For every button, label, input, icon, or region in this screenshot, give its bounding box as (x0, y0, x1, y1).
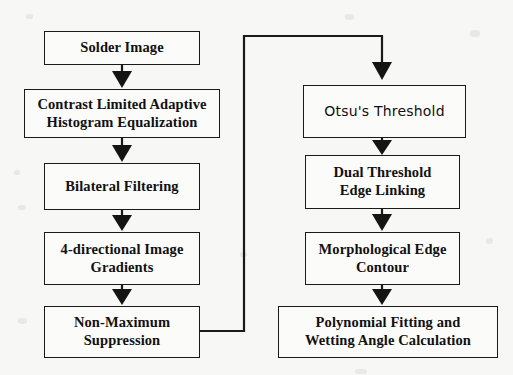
node-label: Dual ThresholdEdge Linking (330, 164, 436, 199)
node-dual-threshold-edge-linking[interactable]: Dual ThresholdEdge Linking (305, 155, 460, 209)
scan-speck (470, 30, 480, 37)
edge-gradients-to-nms (112, 285, 132, 305)
node-label-line2: Gradients (91, 259, 154, 275)
flowchart-canvas: Solder Image Contrast Limited AdaptiveHi… (0, 0, 513, 375)
node-label-line1: 4-directional Image (61, 241, 184, 257)
scan-speck (14, 170, 20, 175)
node-label: Solder Image (76, 39, 168, 57)
node-label-line2: Histogram Equalization (47, 114, 198, 130)
node-morphological-edge-contour[interactable]: Morphological EdgeContour (305, 232, 460, 285)
node-label-line1: Non-Maximum (74, 314, 170, 330)
scan-speck (355, 369, 367, 374)
node-label: Contrast Limited AdaptiveHistogram Equal… (33, 96, 210, 131)
node-polynomial-fitting-and-wetting-angle-calculation[interactable]: Polynomial Fitting andWetting Angle Calc… (278, 306, 498, 358)
node-otsus-threshold[interactable]: Otsu's Threshold (303, 85, 466, 138)
node-label-line2: Suppression (84, 332, 161, 348)
node-label-line2: Edge Linking (340, 182, 425, 198)
node-label: Non-MaximumSuppression (70, 314, 174, 349)
edge-clahe-to-bilateral (112, 138, 132, 162)
node-solder-image[interactable]: Solder Image (44, 31, 200, 65)
node-label-line2: Contour (356, 259, 409, 275)
scan-speck (240, 252, 247, 257)
node-label: Otsu's Threshold (320, 103, 448, 120)
edge-morph-to-poly (372, 285, 392, 305)
edge-solder-to-clahe (112, 65, 132, 88)
scan-speck (18, 318, 27, 324)
node-label: Bilateral Filtering (61, 178, 182, 196)
node-label: Morphological EdgeContour (315, 241, 451, 276)
edge-otsu-to-dual (372, 138, 392, 155)
scan-speck (26, 14, 33, 19)
scan-speck (345, 14, 354, 20)
scan-speck (18, 205, 26, 210)
node-non-maximum-suppression[interactable]: Non-MaximumSuppression (44, 306, 200, 358)
scan-speck (486, 238, 493, 244)
node-label: 4-directional ImageGradients (57, 241, 188, 276)
node-label-line1: Morphological Edge (319, 241, 447, 257)
node-label: Polynomial Fitting andWetting Angle Calc… (301, 314, 475, 349)
edge-dual-to-morph (372, 209, 392, 231)
node-4-directional-image-gradients[interactable]: 4-directional ImageGradients (44, 232, 200, 285)
node-label-line2: Wetting Angle Calculation (305, 332, 471, 348)
node-label-line1: Polynomial Fitting and (316, 314, 461, 330)
node-label-line1: Contrast Limited Adaptive (37, 96, 206, 112)
edge-bilateral-to-gradients (112, 210, 132, 231)
node-contrast-limited-adaptive-histogram-equalization[interactable]: Contrast Limited AdaptiveHistogram Equal… (24, 89, 220, 138)
node-label-line1: Dual Threshold (334, 164, 432, 180)
node-bilateral-filtering[interactable]: Bilateral Filtering (44, 163, 200, 210)
